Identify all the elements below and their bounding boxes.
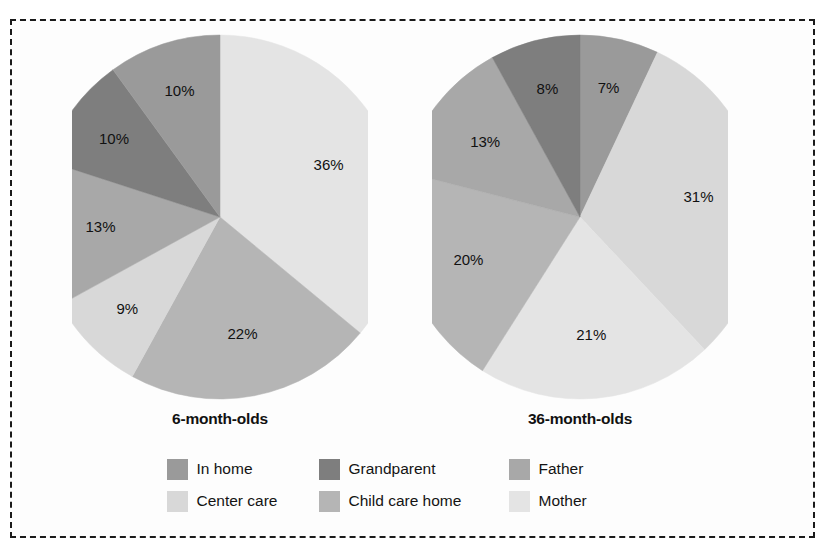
legend-swatch-center-care [167,491,188,512]
legend-label: Grandparent [349,460,436,478]
legend-item-mother[interactable]: Mother [509,491,659,512]
pie-chart-6-month-olds: 36%22%9%13%10%10% 6-month-olds [70,29,370,439]
chart-legend: In homeGrandparentFatherCenter careChild… [12,453,813,517]
pie-slice-label: 20% [453,251,483,268]
pie-slice-label: 8% [537,80,559,97]
pie-title-36-month-olds: 36-month-olds [430,410,730,428]
legend-swatch-grandparent [319,459,340,480]
legend-label: Father [539,460,584,478]
legend-item-grandparent[interactable]: Grandparent [319,459,509,480]
pie-slice-label: 10% [99,130,129,147]
legend-swatch-in-home [167,459,188,480]
legend-swatch-child-care-home [319,491,340,512]
figure-frame: 36%22%9%13%10%10% 6-month-olds 7%31%21%2… [10,19,815,538]
legend-item-child-care-home[interactable]: Child care home [319,491,509,512]
legend-item-center-care[interactable]: Center care [167,491,319,512]
pie-slice-label: 13% [470,133,500,150]
pie-slice-label: 21% [576,326,606,343]
pie-slice-label: 13% [85,218,115,235]
pie-svg-36-month-olds: 7%31%21%20%13%8% [432,29,728,401]
legend-label: Center care [197,492,278,510]
pie-slice-label: 9% [116,300,138,317]
legend-label: Child care home [349,492,462,510]
legend-swatch-mother [509,491,530,512]
pie-slice-label: 36% [314,156,344,173]
legend-grid: In homeGrandparentFatherCenter careChild… [167,453,659,517]
pie-slice-label: 22% [227,325,257,342]
pie-title-6-month-olds: 6-month-olds [70,410,370,428]
pie-slice-label: 31% [683,188,713,205]
legend-item-father[interactable]: Father [509,459,659,480]
legend-label: In home [197,460,253,478]
legend-swatch-father [509,459,530,480]
pie-slice-label: 7% [598,79,620,96]
pie-chart-36-month-olds: 7%31%21%20%13%8% 36-month-olds [430,29,730,439]
pie-slice-label: 10% [164,82,194,99]
pie-svg-6-month-olds: 36%22%9%13%10%10% [72,29,368,401]
pie-charts-container: 36%22%9%13%10%10% 6-month-olds 7%31%21%2… [12,21,813,441]
legend-item-in-home[interactable]: In home [167,459,319,480]
legend-label: Mother [539,492,587,510]
